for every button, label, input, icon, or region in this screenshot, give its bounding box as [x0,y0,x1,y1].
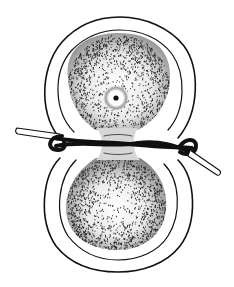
ligated-egg-illustration [0,0,234,287]
ligature-right-end [188,150,220,175]
dark-spot [113,95,118,100]
lower-yolk-mass [66,158,167,254]
illustration-canvas [0,0,234,287]
